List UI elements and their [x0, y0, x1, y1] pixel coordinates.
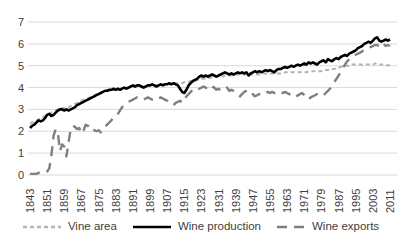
legend-label-wine-exports: Wine exports: [312, 221, 379, 233]
x-tick-label: 1931: [213, 189, 225, 213]
x-tick-label: 1907: [161, 189, 173, 213]
series-line-vine-area: [30, 64, 390, 124]
x-tick-label: 1955: [264, 189, 276, 213]
y-tick-label: 6: [18, 38, 24, 50]
x-tick-label: 1891: [127, 189, 139, 213]
x-tick-label: 1867: [75, 189, 87, 213]
x-tick-label: 1875: [93, 189, 105, 213]
x-tick-label: 1963: [281, 189, 293, 213]
y-tick-label: 7: [18, 16, 24, 28]
x-tick-label: 1899: [144, 189, 156, 213]
x-tick-label: 1883: [110, 189, 122, 213]
x-tick-label: 1971: [298, 189, 310, 213]
legend-item-wine-production: Wine production: [132, 221, 261, 233]
wine-history-chart: 0123456718431851185918671875188318911899…: [0, 0, 401, 243]
x-tick-label: 1859: [58, 189, 70, 213]
y-tick-label: 3: [18, 103, 24, 115]
y-tick-label: 1: [18, 147, 24, 159]
legend-label-vine-area: Vine area: [68, 221, 117, 233]
y-tick-label: 5: [18, 60, 24, 72]
wine-exports-line-sample: [276, 224, 306, 230]
x-tick-label: 1939: [230, 189, 242, 213]
x-tick-label: 1995: [350, 189, 362, 213]
plot-area: 0123456718431851185918671875188318911899…: [0, 0, 401, 218]
legend-label-wine-production: Wine production: [178, 221, 261, 233]
chart-legend: Vine area Wine production Wine exports: [0, 213, 401, 241]
x-tick-label: 1851: [41, 189, 53, 213]
x-tick-label: 1923: [195, 189, 207, 213]
x-tick-label: 1947: [247, 189, 259, 213]
x-tick-label: 1979: [315, 189, 327, 213]
legend-item-vine-area: Vine area: [22, 221, 117, 233]
wine-production-line-sample: [132, 224, 172, 230]
vine-area-line-sample: [22, 224, 62, 230]
x-tick-label: 1987: [333, 189, 345, 213]
series-line-wine-production: [30, 37, 390, 128]
x-tick-label: 2003: [367, 189, 379, 213]
x-tick-label: 2011: [384, 189, 396, 213]
legend-item-wine-exports: Wine exports: [276, 221, 379, 233]
y-tick-label: 2: [18, 125, 24, 137]
y-tick-label: 4: [18, 82, 24, 94]
x-tick-label: 1843: [24, 189, 36, 213]
y-tick-label: 0: [18, 169, 24, 181]
x-tick-label: 1915: [178, 189, 190, 213]
